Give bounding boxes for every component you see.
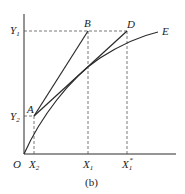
label-y2: Y2: [10, 110, 20, 124]
label-origin: O: [13, 158, 21, 170]
label-y1: Y1: [10, 24, 20, 38]
label-b: B: [84, 17, 91, 29]
figure-caption: (b): [85, 176, 98, 189]
label-d: D: [126, 18, 135, 30]
label-e: E: [161, 25, 169, 37]
diagram-canvas: A B D E O Y1 Y2 X2 X1 X1* (b): [0, 0, 185, 194]
label-x1-star: X1*: [121, 156, 133, 172]
curve-oe: [24, 32, 158, 154]
label-a: A: [26, 103, 34, 115]
label-x1: X1: [82, 158, 93, 172]
label-x2: X2: [28, 158, 40, 172]
